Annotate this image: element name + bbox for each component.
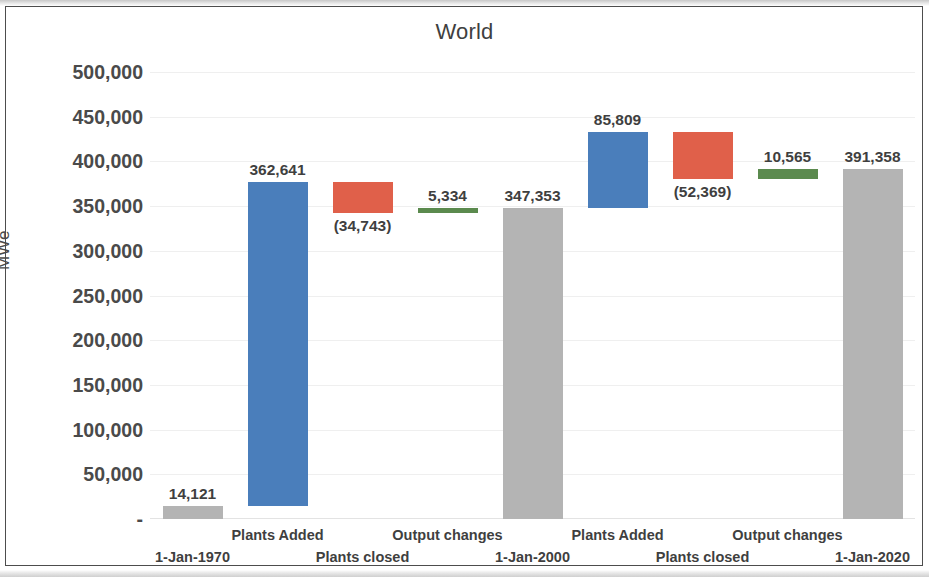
x-axis-category-label: 1-Jan-2020 [835, 549, 910, 565]
x-axis-category-label: Plants Added [571, 527, 663, 543]
bar-total[interactable] [503, 208, 563, 519]
y-axis-tick-label: 350,000 [45, 195, 143, 218]
gridline [150, 117, 915, 118]
y-axis-tick-label: - [45, 508, 143, 531]
x-axis-category-label: Plants closed [316, 549, 409, 565]
bar-value-label: (34,743) [334, 217, 392, 235]
bar-value-label: 85,809 [594, 111, 641, 129]
bar-value-label: 14,121 [169, 485, 216, 503]
bar-value-label: 10,565 [764, 148, 811, 166]
x-axis-category-label: 1-Jan-2000 [495, 549, 570, 565]
y-axis-title: MWe [0, 231, 14, 270]
bar-total[interactable] [163, 506, 223, 519]
bar-increase[interactable] [248, 182, 308, 506]
bar-decrease[interactable] [673, 132, 733, 179]
x-axis-category-label: 1-Jan-1970 [155, 549, 230, 565]
chart-page: World MWe 500,000450,000400,000350,00030… [0, 0, 929, 577]
x-axis-category-label: Plants closed [656, 549, 749, 565]
bar-value-label: 391,358 [844, 148, 900, 166]
bar-value-label: 347,353 [504, 187, 560, 205]
bar-increase[interactable] [758, 169, 818, 178]
y-axis-tick-label: 500,000 [45, 61, 143, 84]
bar-value-label: (52,369) [674, 183, 732, 201]
y-axis-tick-label: 300,000 [45, 239, 143, 262]
scan-edge-bottom [0, 570, 929, 577]
x-axis-category-label: Plants Added [231, 527, 323, 543]
bar-increase[interactable] [418, 208, 478, 213]
x-axis-category-label: Output changes [392, 527, 502, 543]
bar-total[interactable] [843, 169, 903, 519]
bar-value-label: 5,334 [428, 187, 467, 205]
y-axis-tick-label: 150,000 [45, 373, 143, 396]
y-axis-tick-label: 450,000 [45, 105, 143, 128]
gridline [150, 72, 915, 73]
chart-title: World [0, 19, 929, 45]
bar-decrease[interactable] [333, 182, 393, 213]
y-axis-tick-label: 250,000 [45, 284, 143, 307]
y-axis-tick-label: 200,000 [45, 329, 143, 352]
y-axis-tick-label: 50,000 [45, 463, 143, 486]
plot-area [150, 72, 915, 519]
bar-increase[interactable] [588, 132, 648, 209]
bar-value-label: 362,641 [249, 161, 305, 179]
y-axis-tick-label: 400,000 [45, 150, 143, 173]
y-axis-tick-label: 100,000 [45, 418, 143, 441]
x-axis-category-label: Output changes [732, 527, 842, 543]
